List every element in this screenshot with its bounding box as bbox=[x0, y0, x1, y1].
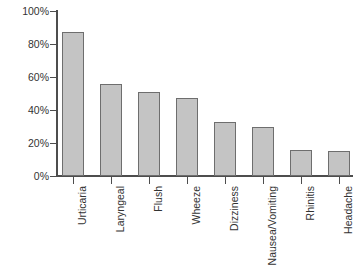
x-axis-tick-label: Laryngeal bbox=[115, 186, 126, 232]
bar bbox=[62, 32, 84, 176]
bar bbox=[214, 122, 236, 176]
bar bbox=[100, 84, 122, 176]
x-axis-tick bbox=[225, 177, 226, 184]
y-axis-tick-label: 20% bbox=[28, 138, 49, 148]
y-axis-tick bbox=[50, 77, 57, 78]
x-axis-tick bbox=[111, 177, 112, 184]
y-axis-tick-label: 100% bbox=[22, 6, 49, 16]
x-axis-tick-label: Urticaria bbox=[77, 186, 88, 225]
x-axis-tick bbox=[263, 177, 264, 184]
x-axis-tick-label: Wheeze bbox=[191, 186, 202, 225]
bar bbox=[138, 92, 160, 176]
x-axis-tick bbox=[187, 177, 188, 184]
x-axis-tick-label: Flush bbox=[153, 186, 164, 212]
x-axis-tick bbox=[73, 177, 74, 184]
x-axis-tick-label: Rhinitis bbox=[305, 186, 316, 220]
y-axis-tick bbox=[50, 110, 57, 111]
y-axis-tick-label: 60% bbox=[28, 72, 49, 82]
bar bbox=[290, 150, 312, 176]
x-axis-tick bbox=[149, 177, 150, 184]
bar bbox=[252, 127, 274, 177]
y-axis-tick-label: 0% bbox=[34, 171, 49, 181]
x-axis-tick bbox=[301, 177, 302, 184]
bar bbox=[328, 151, 350, 176]
y-axis-tick-label: 80% bbox=[28, 39, 49, 49]
x-axis-tick-label: Headache bbox=[343, 186, 354, 234]
y-axis-tick bbox=[50, 44, 57, 45]
x-axis-tick-label: Dizziness bbox=[229, 186, 240, 231]
x-axis-tick-label: Nausea/Vomiting bbox=[267, 186, 278, 265]
y-axis-tick bbox=[50, 11, 57, 12]
bar-chart: 0%20%40%60%80%100% UrticariaLaryngealFlu… bbox=[0, 0, 362, 267]
plot-area bbox=[57, 11, 353, 176]
bar bbox=[176, 98, 198, 176]
y-axis-tick-label: 40% bbox=[28, 105, 49, 115]
y-axis-tick bbox=[50, 176, 57, 177]
y-axis-tick bbox=[50, 143, 57, 144]
x-axis-tick bbox=[339, 177, 340, 184]
